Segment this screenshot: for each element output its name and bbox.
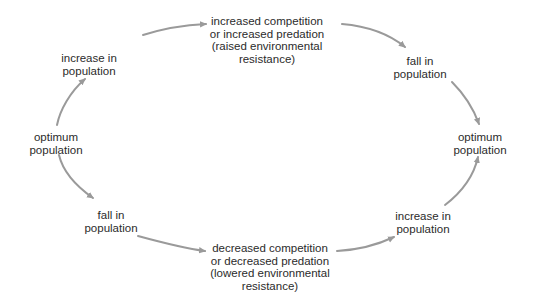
node-text-line: population: [393, 68, 446, 81]
node-raised-resistance: increased competition or increased preda…: [210, 15, 324, 65]
node-text-line: (lowered environmental: [210, 267, 330, 280]
node-text-line: resistance): [210, 53, 324, 66]
node-text-line: population: [453, 144, 506, 157]
node-optimum-population-left: optimum population: [29, 131, 82, 156]
arrow-bottom-to-bottomright: [337, 237, 394, 251]
arrow-topright-to-right: [452, 82, 479, 124]
arrow-top-to-topright: [342, 24, 405, 47]
node-text-line: population: [395, 223, 451, 236]
node-text-line: population: [29, 144, 82, 157]
arrow-bottomleft-to-bottom: [138, 236, 205, 251]
node-text-line: population: [84, 222, 137, 235]
node-text-line: increased competition: [210, 15, 324, 28]
node-fall-in-population-bottom: fall in population: [84, 209, 137, 234]
arrow-bottomright-to-right: [445, 157, 478, 205]
population-cycle-diagram: increased competition or increased preda…: [0, 0, 533, 301]
node-text-line: optimum: [453, 131, 506, 144]
node-text-line: optimum: [29, 131, 82, 144]
node-fall-in-population-top: fall in population: [393, 55, 446, 80]
node-text-line: fall in: [84, 209, 137, 222]
arrow-left-to-topleft: [57, 79, 85, 125]
node-text-line: (raised environmental: [210, 40, 324, 53]
node-increase-in-population-bottom: increase in population: [395, 210, 451, 235]
node-text-line: population: [61, 65, 117, 78]
node-text-line: resistance): [210, 280, 330, 293]
node-lowered-resistance: decreased competition or decreased preda…: [210, 242, 330, 292]
arrow-left-to-bottomleft: [59, 155, 93, 198]
node-text-line: increase in: [61, 52, 117, 65]
node-text-line: increase in: [395, 210, 451, 223]
node-text-line: fall in: [393, 55, 446, 68]
node-text-line: or increased predation: [210, 28, 324, 41]
arrow-topleft-to-top: [143, 24, 206, 35]
node-increase-in-population-top: increase in population: [61, 52, 117, 77]
node-text-line: or decreased predation: [210, 255, 330, 268]
node-text-line: decreased competition: [210, 242, 330, 255]
node-optimum-population-right: optimum population: [453, 131, 506, 156]
